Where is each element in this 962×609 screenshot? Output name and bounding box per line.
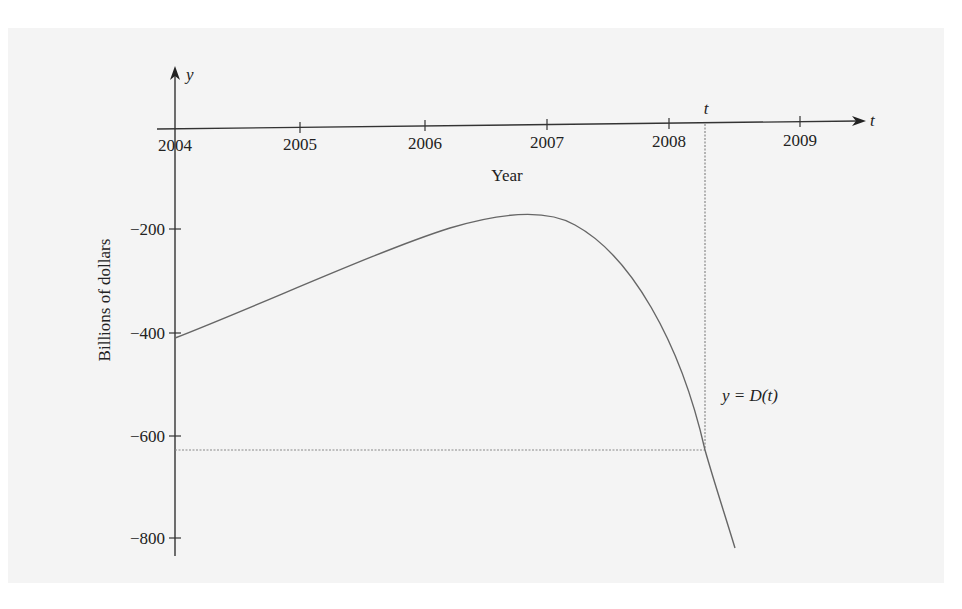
- x-tick-label: 2009: [783, 131, 817, 150]
- curve-D-of-t: [175, 214, 735, 548]
- t-marker-label: t: [704, 99, 710, 118]
- y-tick-label: −200: [130, 220, 165, 239]
- y-tick-label: −600: [130, 427, 165, 446]
- chart-figure: y t 2004 2005 2006 2007 2008 2009 Year −…: [0, 0, 962, 609]
- x-axis-label: Year: [491, 166, 523, 185]
- x-tick-label: 2008: [652, 132, 686, 151]
- x-axis-symbol: t: [870, 111, 876, 130]
- x-tick-label: 2004: [158, 136, 193, 155]
- x-axis: [157, 121, 858, 129]
- chart-svg: y t 2004 2005 2006 2007 2008 2009 Year −…: [0, 0, 962, 609]
- y-tick-label: −800: [130, 529, 165, 548]
- x-tick-label: 2005: [283, 135, 317, 154]
- y-axis-label: Billions of dollars: [95, 239, 114, 362]
- curve-label: y = D(t): [720, 386, 778, 405]
- y-tick-label: −400: [130, 324, 165, 343]
- y-axis-symbol: y: [184, 65, 194, 84]
- x-tick-label: 2007: [530, 133, 565, 152]
- x-tick-label: 2006: [408, 134, 442, 153]
